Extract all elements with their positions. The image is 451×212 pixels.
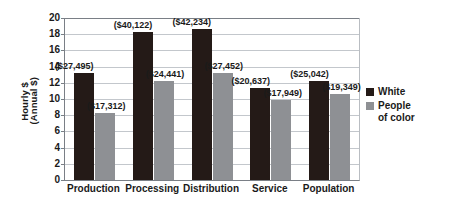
y-tick-mark bbox=[61, 115, 65, 116]
x-tick-label: Population bbox=[299, 183, 358, 194]
y-tick-mark bbox=[61, 148, 65, 149]
bar-data-label: ($42,234) bbox=[173, 17, 212, 28]
y-tick-mark bbox=[61, 18, 65, 19]
x-axis-tick-labels: ProductionProcessingDistributionServiceP… bbox=[64, 183, 358, 194]
y-tick-mark bbox=[61, 99, 65, 100]
y-tick-mark bbox=[61, 34, 65, 35]
bar-people-of-color bbox=[95, 113, 115, 180]
y-tick-label: 16 bbox=[34, 44, 60, 56]
bar-white bbox=[250, 88, 270, 180]
legend-item-white: White bbox=[366, 86, 450, 98]
y-tick-mark bbox=[61, 83, 65, 84]
y-tick-mark bbox=[61, 67, 65, 68]
x-tick-label: Processing bbox=[123, 183, 182, 194]
legend-swatch-people-of-color bbox=[366, 102, 374, 110]
chart-legend: White People of color bbox=[366, 86, 450, 126]
legend-swatch-white bbox=[366, 88, 374, 96]
bar-data-label: ($20,637) bbox=[231, 76, 270, 87]
y-tick-label: 8 bbox=[34, 109, 60, 121]
bar-group: ($27,495)($17,312) bbox=[65, 18, 124, 180]
y-tick-label: 20 bbox=[34, 12, 60, 24]
bar-group: ($40,122)($24,441) bbox=[124, 18, 183, 180]
bar-people-of-color bbox=[213, 73, 233, 180]
bar-people-of-color bbox=[154, 81, 174, 180]
x-tick-label: Production bbox=[64, 183, 123, 194]
bar-white bbox=[133, 32, 153, 180]
y-tick-label: 10 bbox=[34, 93, 60, 105]
bar-data-label: ($27,452) bbox=[205, 61, 244, 72]
y-tick-mark bbox=[61, 164, 65, 165]
bar-group: ($20,637)($17,949) bbox=[241, 18, 300, 180]
bar-group: ($42,234)($27,452) bbox=[183, 18, 242, 180]
y-tick-label: 2 bbox=[34, 158, 60, 170]
y-tick-label: 18 bbox=[34, 28, 60, 40]
legend-label-white: White bbox=[378, 86, 405, 98]
x-tick-label: Distribution bbox=[182, 183, 241, 194]
y-tick-label: 6 bbox=[34, 125, 60, 137]
y-axis-tick-labels: 02468101214161820 bbox=[34, 12, 60, 186]
plot-area: ($27,495)($17,312)($40,122)($24,441)($42… bbox=[64, 18, 360, 181]
bar-data-label: ($19,349) bbox=[322, 82, 361, 93]
bar-group: ($25,042)($19,349) bbox=[300, 18, 359, 180]
bar-data-label: ($25,042) bbox=[290, 69, 329, 80]
legend-label-people-of-color-line-2: of color bbox=[378, 112, 415, 124]
bar-white bbox=[192, 29, 212, 180]
bar-people-of-color bbox=[271, 100, 291, 180]
y-tick-label: 12 bbox=[34, 77, 60, 89]
y-tick-mark bbox=[61, 180, 65, 181]
bar-data-label: ($17,949) bbox=[263, 88, 302, 99]
y-tick-label: 4 bbox=[34, 142, 60, 154]
bar-chart: Hourly $ (Annual $) 02468101214161820 ($… bbox=[0, 0, 451, 212]
y-tick-label: 0 bbox=[34, 174, 60, 186]
bar-data-label: ($40,122) bbox=[114, 20, 153, 31]
bar-people-of-color bbox=[330, 94, 350, 180]
legend-label-people-of-color-line-1: People bbox=[378, 100, 415, 112]
bar-data-label: ($17,312) bbox=[87, 101, 126, 112]
y-tick-mark bbox=[61, 50, 65, 51]
bar-groups: ($27,495)($17,312)($40,122)($24,441)($42… bbox=[65, 18, 359, 180]
legend-label-people-of-color: People of color bbox=[378, 100, 415, 124]
legend-item-people-of-color: People of color bbox=[366, 100, 450, 124]
y-tick-mark bbox=[61, 131, 65, 132]
bar-data-label: ($24,441) bbox=[146, 69, 185, 80]
x-tick-label: Service bbox=[240, 183, 299, 194]
bar-white bbox=[309, 81, 329, 180]
bar-white bbox=[74, 73, 94, 180]
